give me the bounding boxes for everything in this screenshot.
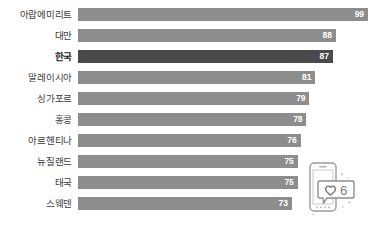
bar-row: 아랍에미리트 99 bbox=[0, 8, 368, 21]
bar-category-label: 한국 bbox=[0, 50, 72, 63]
bar-category-label: 아르헨티나 bbox=[0, 134, 72, 147]
bar-track: 78 bbox=[78, 113, 368, 126]
bar-fill: 87 bbox=[78, 50, 333, 63]
bar-fill: 75 bbox=[78, 155, 298, 168]
bar-fill: 99 bbox=[78, 8, 368, 21]
bar-row: 홍콩 78 bbox=[0, 113, 368, 126]
bar-row: 말레이시아 81 bbox=[0, 71, 368, 84]
bar-category-label: 아랍에미리트 bbox=[0, 8, 72, 21]
bar-value-label: 75 bbox=[284, 155, 297, 168]
smartphone-social-like-icon: 6 bbox=[302, 160, 358, 218]
bar-category-label: 대만 bbox=[0, 29, 72, 42]
bar-value-label: 78 bbox=[293, 113, 306, 126]
bar-row: 싱가포르 79 bbox=[0, 92, 368, 105]
bar-value-label: 73 bbox=[279, 197, 292, 210]
bar-row: 대만 88 bbox=[0, 29, 368, 42]
bar-category-label: 태국 bbox=[0, 176, 72, 189]
bar-track: 88 bbox=[78, 29, 368, 42]
bar-chart: 아랍에미리트 99 대만 88 한국 87 말 bbox=[0, 0, 368, 230]
bar-value-label: 75 bbox=[284, 176, 297, 189]
bar-category-label: 스웨덴 bbox=[0, 197, 72, 210]
bar-fill: 88 bbox=[78, 29, 336, 42]
bar-track: 81 bbox=[78, 71, 368, 84]
bar-track: 76 bbox=[78, 134, 368, 147]
bar-track: 99 bbox=[78, 8, 368, 21]
bar-value-label: 99 bbox=[355, 8, 368, 21]
bar-row: 아르헨티나 76 bbox=[0, 134, 368, 147]
bar-fill: 75 bbox=[78, 176, 298, 189]
bar-fill: 79 bbox=[78, 92, 309, 105]
bar-value-label: 79 bbox=[296, 92, 309, 105]
bar-track: 87 bbox=[78, 50, 368, 63]
bar-category-label: 홍콩 bbox=[0, 113, 72, 126]
bar-fill: 78 bbox=[78, 113, 306, 126]
svg-text:6: 6 bbox=[340, 183, 347, 198]
bar-fill: 73 bbox=[78, 197, 292, 210]
bar-fill: 81 bbox=[78, 71, 315, 84]
bar-value-label: 88 bbox=[323, 29, 336, 42]
bar-value-label: 87 bbox=[320, 50, 333, 63]
bar-row-highlighted: 한국 87 bbox=[0, 50, 368, 63]
bar-category-label: 말레이시아 bbox=[0, 71, 72, 84]
bar-category-label: 뉴질랜드 bbox=[0, 155, 72, 168]
bar-fill: 76 bbox=[78, 134, 301, 147]
bar-value-label: 81 bbox=[302, 71, 315, 84]
bar-value-label: 76 bbox=[287, 134, 300, 147]
bar-category-label: 싱가포르 bbox=[0, 92, 72, 105]
bar-track: 79 bbox=[78, 92, 368, 105]
